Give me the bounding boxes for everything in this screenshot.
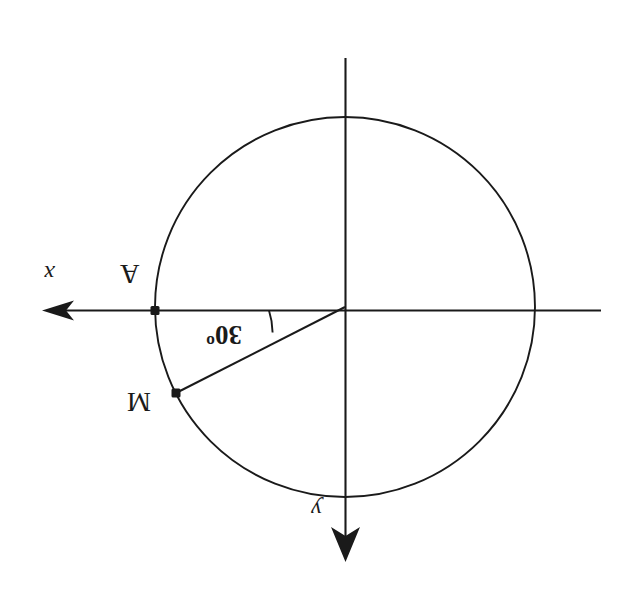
figure-canvas: x A 30º M y <box>0 0 619 602</box>
point-m-marker <box>172 389 181 398</box>
point-a-marker <box>151 306 160 315</box>
radius-om-segment <box>176 307 345 393</box>
angle-arc <box>269 311 273 333</box>
unit-circle-diagram <box>0 0 619 602</box>
point-a-label: A <box>120 260 140 287</box>
x-axis-label: x <box>44 262 55 286</box>
y-axis-label: y <box>311 498 322 522</box>
angle-label: 30º <box>206 321 242 348</box>
point-m-label: M <box>127 388 151 415</box>
x-axis <box>42 301 601 321</box>
